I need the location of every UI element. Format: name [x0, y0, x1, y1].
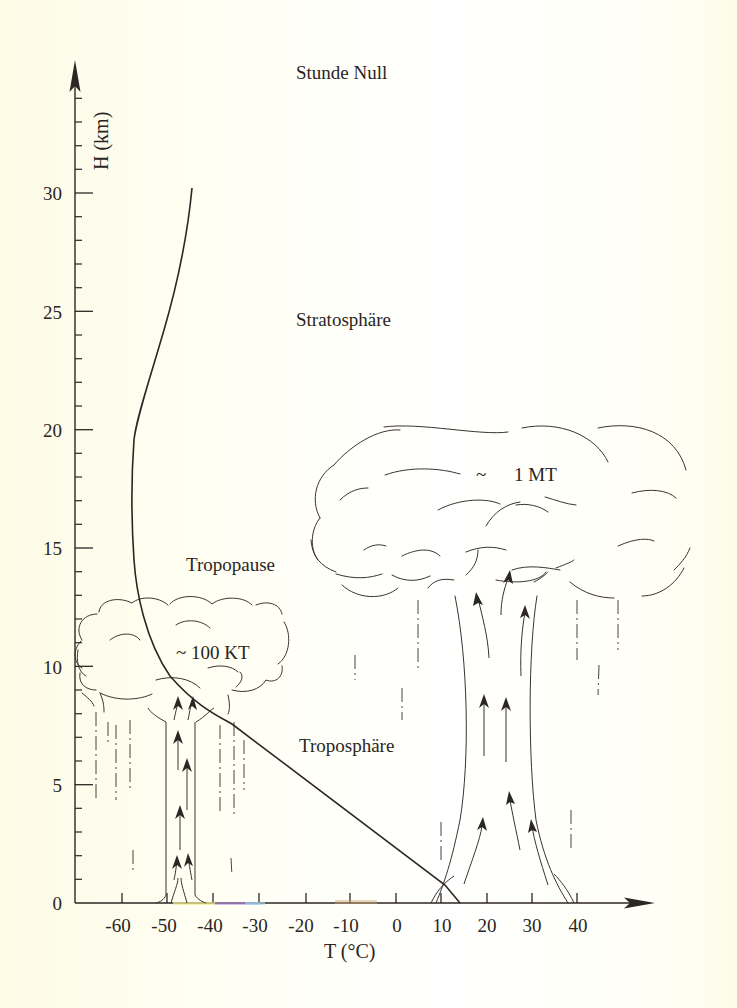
x-tick-40: 40 — [569, 915, 588, 936]
label-large-cloud-tilde: ~ — [476, 464, 486, 485]
label-small-cloud: ~ 100 KT — [176, 642, 250, 663]
diagram-stage: 0 5 10 15 20 25 30 H (km) — [0, 0, 737, 1008]
y-axis: 0 5 10 15 20 25 30 H (km) — [43, 60, 113, 914]
x-tick--60: -60 — [105, 915, 130, 936]
x-tick-labels: -60 -50 -40 -30 -20 -10 0 10 20 30 40 — [105, 915, 587, 936]
x-tick--40: -40 — [197, 915, 222, 936]
large-mushroom-cloud: ~ 1 MT — [311, 426, 690, 903]
atmosphere-diagram: 0 5 10 15 20 25 30 H (km) — [0, 0, 737, 1008]
label-troposphere: Troposphäre — [299, 735, 394, 756]
y-tick-25: 25 — [43, 302, 62, 323]
x-tick--10: -10 — [333, 915, 358, 936]
y-tick-20: 20 — [43, 420, 62, 441]
label-large-cloud: 1 MT — [514, 464, 557, 485]
y-tick-15: 15 — [43, 538, 62, 559]
y-tick-labels: 0 5 10 15 20 25 30 — [43, 183, 62, 914]
x-tick-30: 30 — [523, 915, 542, 936]
temperature-profile-curve — [132, 188, 460, 903]
x-tick--20: -20 — [288, 915, 313, 936]
diagram-title: Stunde Null — [296, 62, 387, 83]
x-axis-label: T (°C) — [324, 940, 376, 963]
y-minor-ticks — [75, 98, 82, 879]
y-tick-30: 30 — [43, 183, 62, 204]
x-tick-20: 20 — [478, 915, 497, 936]
label-stratosphere: Stratosphäre — [296, 309, 391, 330]
y-tick-0: 0 — [53, 893, 63, 914]
label-tropopause: Tropopause — [186, 554, 275, 575]
y-tick-10: 10 — [43, 657, 62, 678]
y-major-ticks — [75, 193, 93, 785]
y-tick-5: 5 — [53, 775, 63, 796]
small-mushroom-cloud: ~ 100 KT — [75, 597, 289, 904]
x-tick--50: -50 — [151, 915, 176, 936]
y-axis-label: H (km) — [90, 112, 113, 170]
x-tick-10: 10 — [433, 915, 452, 936]
x-tick-0: 0 — [392, 915, 402, 936]
x-tick--30: -30 — [242, 915, 267, 936]
